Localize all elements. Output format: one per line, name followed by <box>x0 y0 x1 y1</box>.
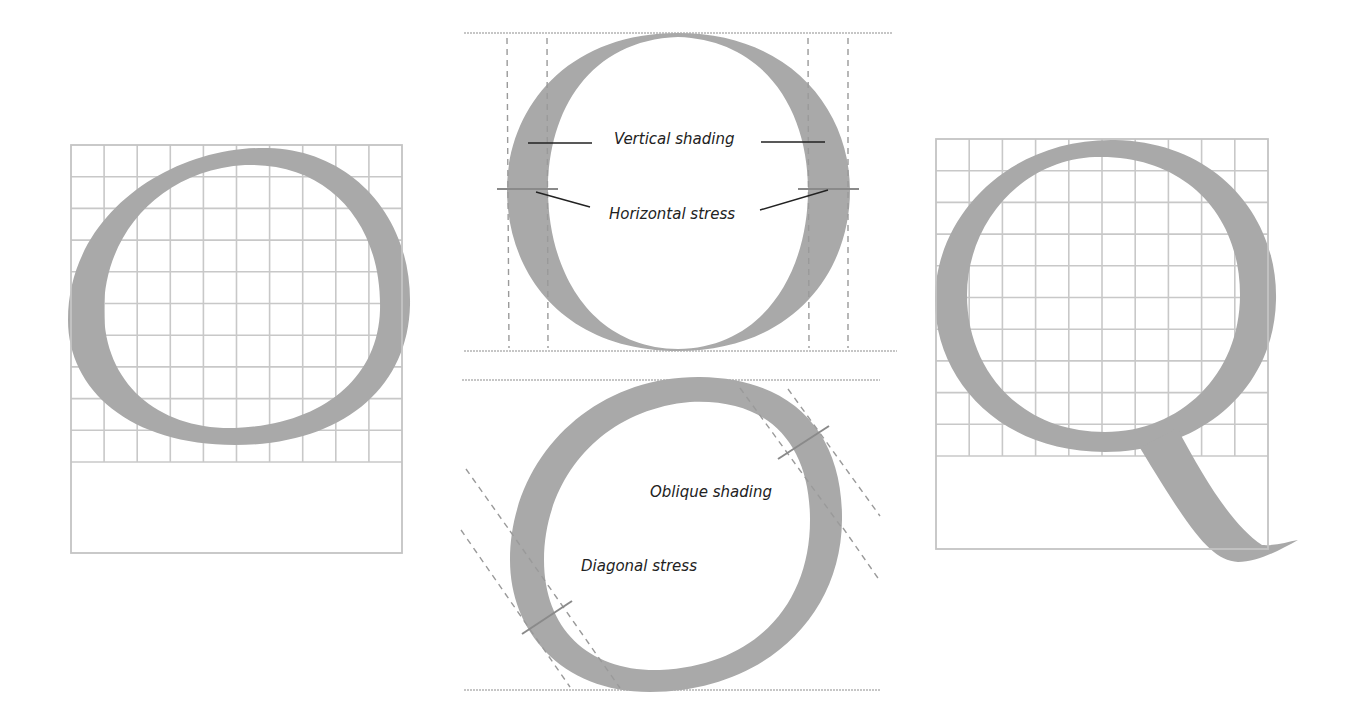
label-vertical-shading: Vertical shading <box>614 130 734 148</box>
label-oblique-shading: Oblique shading <box>650 483 772 501</box>
center-top-panel: Vertical shading Horizontal stress <box>464 33 897 351</box>
inner-right-guide <box>808 38 809 348</box>
oblique-outer-guide-right <box>843 528 880 581</box>
left-panel-letter-o <box>68 145 410 553</box>
inner-left-guide <box>547 38 548 348</box>
upright-o-glyph <box>507 33 850 351</box>
letter-q-bowl-glyph <box>935 140 1276 452</box>
stress-shading-diagram: Vertical shading Horizontal stress Obliq… <box>0 0 1355 722</box>
letter-q-tail-glyph <box>1140 428 1298 562</box>
oblique-o-glyph <box>510 377 842 692</box>
letter-o-glyph <box>68 148 410 445</box>
label-horizontal-stress: Horizontal stress <box>609 205 735 223</box>
right-panel-letter-q <box>935 139 1298 562</box>
label-diagonal-stress: Diagonal stress <box>581 557 697 575</box>
center-bottom-panel: Oblique shading Diagonal stress <box>461 377 880 692</box>
oblique-outer-guide-left-top <box>466 469 510 531</box>
